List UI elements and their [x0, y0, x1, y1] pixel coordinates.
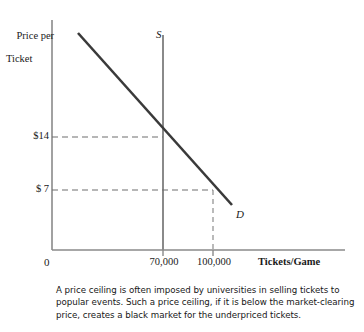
origin-label: 0 [44, 256, 50, 268]
y-axis-title-line2: Ticket [6, 53, 54, 65]
demand-curve-label: D [236, 208, 244, 220]
y-tick-label-14: $14 [21, 130, 49, 142]
y-axis-title: Price per Ticket [6, 18, 54, 89]
chart-canvas [0, 0, 364, 278]
y-tick-label-7: $ 7 [21, 183, 49, 195]
supply-demand-figure: Price per Ticket $14 $ 7 0 70,000 100,00… [0, 0, 364, 278]
y-axis-title-line1: Price per [17, 30, 55, 41]
x-tick-label-100000: 100,000 [185, 256, 243, 268]
x-axis-title: Tickets/Game [258, 256, 320, 268]
demand-curve [78, 33, 232, 205]
supply-curve-label: S [156, 28, 162, 40]
figure-caption: A price ceiling is often imposed by univ… [56, 284, 356, 321]
x-tick-label-70000: 70,000 [138, 256, 190, 268]
